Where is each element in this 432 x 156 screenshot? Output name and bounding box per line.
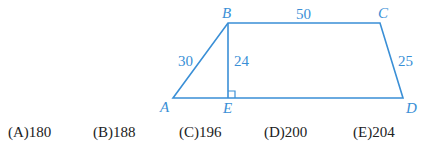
length-ab: 30	[178, 53, 193, 69]
choice-c[interactable]: (C)196	[179, 124, 222, 141]
answer-choices: (A)180 (B)188 (C)196 (D)200 (E)204	[0, 124, 432, 148]
vertex-a: A	[159, 99, 170, 115]
choice-e[interactable]: (E)204	[353, 124, 395, 141]
choice-value: 200	[285, 124, 308, 140]
trapezoid-abcd	[173, 23, 403, 98]
right-angle-marker	[228, 91, 235, 98]
choice-letter: (E)	[353, 124, 372, 140]
choice-letter: (D)	[264, 124, 285, 140]
length-cd: 25	[398, 53, 413, 69]
choice-letter: (C)	[179, 124, 199, 140]
choice-letter: (B)	[93, 124, 113, 140]
choice-value: 204	[372, 124, 395, 140]
choice-b[interactable]: (B)188	[93, 124, 136, 141]
vertex-e: E	[222, 100, 232, 116]
choice-d[interactable]: (D)200	[264, 124, 307, 141]
length-be: 24	[234, 53, 250, 69]
length-bc: 50	[296, 6, 311, 22]
choice-letter: (A)	[8, 124, 29, 140]
vertex-b: B	[222, 5, 231, 21]
choice-value: 188	[113, 124, 136, 140]
vertex-d: D	[405, 100, 417, 116]
choice-a[interactable]: (A)180	[8, 124, 51, 141]
choice-value: 180	[29, 124, 52, 140]
choice-value: 196	[199, 124, 222, 140]
vertex-c: C	[378, 5, 389, 21]
